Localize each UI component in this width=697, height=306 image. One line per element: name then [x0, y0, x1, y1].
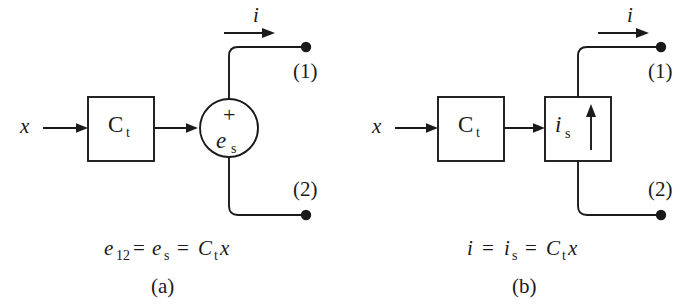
panel-b-eq-term1-base: i: [467, 236, 473, 260]
panel-a-eq-term4-base: x: [219, 236, 230, 260]
transducer-equivalent-circuit-diagram: C_t --> x C t + e s (1): [0, 0, 697, 306]
panel-a-source-polarity-plus: +: [223, 102, 235, 127]
panel-a-eq-operator1: =: [133, 236, 145, 260]
panel-a-eq-term2-base: e: [152, 236, 161, 260]
panel-b-source-symbol-base: i: [555, 112, 561, 137]
panel-a-gain-block-subscript: t: [126, 125, 130, 140]
panel-b-eq-term3-base: C: [546, 236, 561, 260]
panel-a-eq-term3-sub: t: [214, 248, 218, 263]
panel-a-terminal-1-dot: [301, 42, 311, 52]
panel-a-terminal-1-label: (1): [293, 59, 318, 83]
panel-a-source-arrowhead: [186, 123, 198, 133]
panel-b-eq-operator1: =: [482, 236, 494, 260]
panel-a-gain-block-base: C: [108, 112, 123, 137]
figure-root: C_t --> x C t + e s (1): [0, 0, 697, 306]
panel-b-equation: i = i s = C t x: [467, 236, 578, 263]
panel-a-terminal-2-dot: [301, 210, 311, 220]
panel-b-gain-block-base: C: [458, 112, 473, 137]
panel-a-current-label: i: [253, 3, 259, 27]
panel-a-equation: e 12 = e s = C t x: [104, 236, 230, 263]
panel-a-eq-term1-sub: 12: [116, 248, 130, 263]
panel-a-eq-term1-base: e: [104, 236, 113, 260]
panel-b-caption: (b): [512, 274, 537, 298]
panel-a-source-symbol-base: e: [216, 128, 226, 153]
panel-b-terminal-2-dot: [656, 210, 666, 220]
panel-a-caption: (a): [151, 274, 174, 298]
panel-b: C_t --> x C t i s: [371, 3, 673, 298]
panel-a-current-arrowhead: [262, 28, 275, 38]
panel-b-eq-term2-sub: s: [512, 248, 517, 263]
panel-a-input-label: x: [19, 114, 30, 138]
panel-b-eq-term3-sub: t: [562, 248, 566, 263]
panel-b-eq-term2-base: i: [504, 236, 510, 260]
panel-a-eq-operator2: =: [177, 236, 189, 260]
panel-b-terminal-1-label: (1): [648, 59, 673, 83]
panel-b-current-arrowhead: [636, 28, 649, 38]
panel-b-source-arrowhead: [533, 123, 545, 133]
panel-b-source-symbol-subscript: s: [565, 126, 570, 141]
panel-b-input-label: x: [371, 114, 382, 138]
panel-a: C_t --> x C t + e s (1): [19, 3, 318, 298]
panel-a-source-symbol-subscript: s: [231, 141, 236, 156]
panel-b-terminal-1-dot: [656, 42, 666, 52]
panel-a-input-arrowhead: [76, 123, 88, 133]
panel-a-eq-term2-sub: s: [164, 248, 169, 263]
panel-b-eq-term4-base: x: [567, 236, 578, 260]
panel-b-input-arrowhead: [426, 123, 438, 133]
panel-b-gain-block-subscript: t: [476, 125, 480, 140]
panel-a-terminal-2-label: (2): [293, 177, 318, 201]
panel-b-current-label: i: [627, 3, 633, 27]
panel-a-eq-term3-base: C: [198, 236, 213, 260]
panel-b-terminal-2-label: (2): [648, 177, 673, 201]
panel-b-eq-operator2: =: [525, 236, 537, 260]
